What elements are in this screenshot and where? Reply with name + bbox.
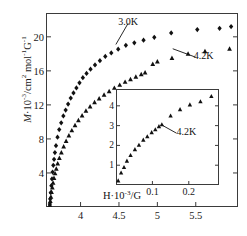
inset-x-tick-label-0.1: 0.1 [140,186,164,197]
inset-y-tick-label-4: 4 [102,101,114,111]
inset-x-label-factor: ·10 [111,190,125,201]
inset-y-tick-label-2: 2 [102,140,114,150]
y-axis-tick-labels: 48121620 [26,0,44,236]
inset-x-tick-label-0.2: 0.2 [177,186,201,197]
inset-x-label-symbol: H [103,190,111,201]
y-tick-label-16: 16 [28,65,44,76]
inset-y-tick-label-1: 1 [102,160,114,170]
y-tick-label-20: 20 [28,31,44,42]
y-tick-label-8: 8 [28,133,44,144]
y-tick-label-12: 12 [28,99,44,110]
x-tick-label-4: 4 [68,210,94,221]
x-tick-label-5.5: 5.5 [183,210,209,221]
x-tick-label-5: 5 [144,210,170,221]
inset-y-tick-label-3: 3 [102,121,114,131]
x-axis-tick-labels: 44.555.5 [0,210,247,226]
annotation-3.0K: 3.0K [118,16,138,27]
annotation-4.2K: 4.2K [194,50,214,61]
inset-x-label-unit: /G [131,190,142,201]
inset-plot-canvas [116,89,219,185]
y-tick-label-4: 4 [28,167,44,178]
inset-x-axis-label: H·10-3/G [103,190,141,201]
inset-annotation-4.2K: 4.2K [176,126,196,137]
magnetization-figure: M·10-3/cm2 mol-1G-1 48121620 44.555.5 3.… [0,0,247,236]
